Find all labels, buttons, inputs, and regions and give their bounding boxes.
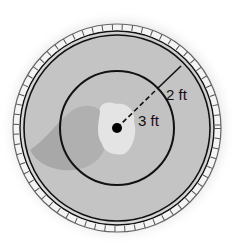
concentric-circles-diagram: 2 ft 3 ft [0, 0, 243, 251]
ring-width-label: 2 ft [166, 86, 188, 103]
diagram-canvas: 2 ft 3 ft [0, 0, 243, 251]
inner-radius-label: 3 ft [138, 112, 160, 129]
center-point [112, 123, 122, 133]
